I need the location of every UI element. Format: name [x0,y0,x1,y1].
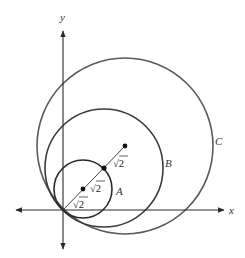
svg-text:√2: √2 [113,158,124,169]
svg-text:√2: √2 [90,183,101,194]
circle-a-label: A [115,185,123,197]
center-a-point [81,187,86,192]
y-axis-label: y [59,11,65,23]
center-b-point [101,165,106,170]
svg-text:√2: √2 [73,199,84,210]
sqrt2-label-1: √2 [73,197,88,210]
nested-circles-diagram: y x C B A √2 √2 √2 [0,0,245,258]
x-axis-label: x [228,204,234,216]
circle-b-label: B [165,157,172,169]
sqrt2-label-2: √2 [90,181,105,194]
circle-c-label: C [215,135,223,147]
center-c-point [123,144,128,149]
sqrt2-label-3: √2 [113,156,128,169]
